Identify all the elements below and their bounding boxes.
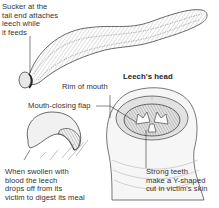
swollen-leech bbox=[24, 112, 88, 160]
label-strong-teeth: Strong teeth make a Y-shaped cut in vict… bbox=[146, 168, 208, 194]
tail-sucker bbox=[19, 72, 32, 88]
label-mouth-closing-flap: Mouth-closing flap bbox=[28, 102, 91, 111]
label-rim-of-mouth: Rim of mouth bbox=[62, 83, 108, 92]
label-swollen: When swollen with blood the leech drops … bbox=[5, 168, 85, 202]
label-sucker: Sucker at the tail end attaches leech wh… bbox=[2, 3, 58, 37]
label-leechs-head: Leech's head bbox=[123, 73, 173, 82]
